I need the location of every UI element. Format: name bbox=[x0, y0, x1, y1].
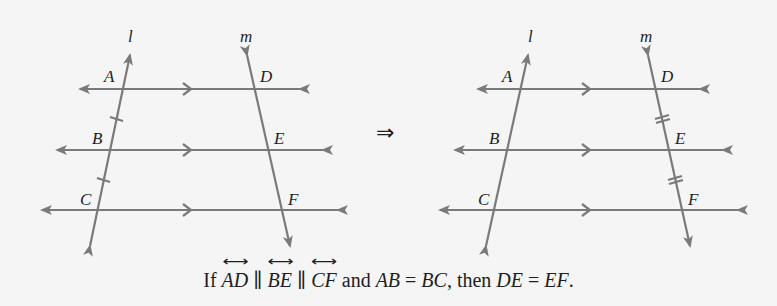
left-diagram bbox=[42, 55, 338, 246]
label-m: m bbox=[640, 27, 652, 46]
right-diagram bbox=[440, 55, 738, 246]
caption-if: If bbox=[203, 269, 216, 291]
label-l: l bbox=[128, 27, 133, 46]
label-F: F bbox=[287, 190, 299, 209]
caption-and: and bbox=[342, 269, 371, 291]
parallel-lines-figure: l m A B C D E F ⇒ l m A B C D E F bbox=[0, 0, 777, 260]
equals-symbol: = bbox=[528, 269, 539, 291]
label-E: E bbox=[674, 129, 686, 148]
segment-AB: AB bbox=[376, 269, 400, 291]
equals-symbol: = bbox=[405, 269, 416, 291]
parallel-symbol: ∥ bbox=[297, 269, 306, 291]
label-B: B bbox=[489, 129, 500, 148]
label-F: F bbox=[687, 190, 699, 209]
label-l: l bbox=[528, 27, 533, 46]
label-D: D bbox=[259, 67, 273, 86]
line-AD-notation: AD bbox=[222, 269, 249, 292]
line-BE-notation: BE bbox=[268, 269, 292, 292]
caption-then: , then bbox=[447, 269, 491, 291]
label-D: D bbox=[660, 67, 674, 86]
label-A: A bbox=[501, 67, 513, 86]
right-labels: l m A B C D E F bbox=[478, 27, 699, 209]
parallel-symbol: ∥ bbox=[253, 269, 262, 291]
label-A: A bbox=[103, 67, 115, 86]
label-C: C bbox=[80, 190, 92, 209]
label-E: E bbox=[273, 129, 285, 148]
segment-DE: DE bbox=[496, 269, 523, 291]
segment-EF: EF bbox=[544, 269, 568, 291]
theorem-caption: If AD ∥ BE ∥ CF and AB = BC, then DE = E… bbox=[0, 268, 777, 292]
line-CF-notation: CF bbox=[311, 269, 337, 292]
caption-period: . bbox=[569, 269, 574, 291]
label-C: C bbox=[478, 190, 490, 209]
label-B: B bbox=[92, 129, 103, 148]
implies-icon: ⇒ bbox=[376, 120, 394, 145]
label-m: m bbox=[240, 27, 252, 46]
segment-BC: BC bbox=[421, 269, 447, 291]
